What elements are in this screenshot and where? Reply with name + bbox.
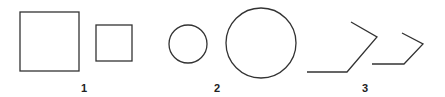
small-polyline bbox=[372, 33, 423, 64]
group-1: 1 bbox=[20, 12, 132, 94]
large-square bbox=[20, 12, 79, 71]
shape-comparison-figure: 1 2 3 bbox=[0, 0, 445, 97]
large-circle bbox=[226, 8, 296, 78]
small-square bbox=[96, 25, 132, 61]
group-label-3: 3 bbox=[362, 82, 368, 94]
group-3: 3 bbox=[307, 22, 423, 94]
group-2: 2 bbox=[169, 8, 296, 94]
large-polyline bbox=[307, 22, 377, 72]
group-label-1: 1 bbox=[81, 82, 87, 94]
group-label-2: 2 bbox=[214, 82, 220, 94]
small-circle bbox=[169, 25, 207, 63]
